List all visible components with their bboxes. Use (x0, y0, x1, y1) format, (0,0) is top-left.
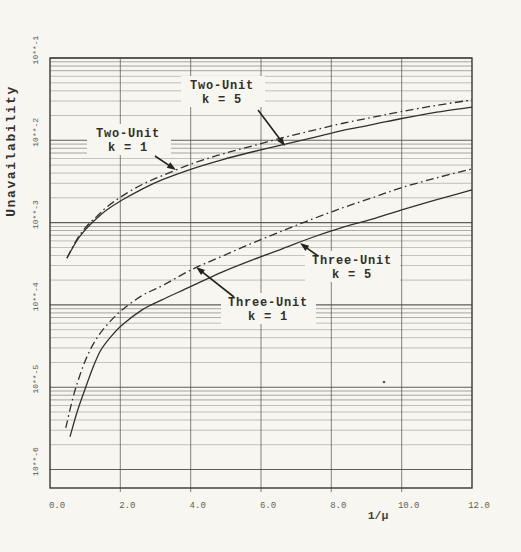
annotation-arrowhead (167, 162, 176, 170)
x-tick-label: 8.0 (330, 501, 346, 511)
x-tick-label: 12.0 (468, 501, 490, 511)
annotation-arrow-line (258, 110, 283, 144)
annotation-line-1: Three-Unit (228, 296, 308, 310)
y-tick-label: 10**-3 (31, 200, 40, 229)
x-tick-label: 10.0 (398, 501, 420, 511)
y-tick-label: 10**-4 (31, 282, 40, 311)
x-tick-label: 4.0 (190, 501, 206, 511)
two-unit-k5-label: Two-Unitk = 5 (181, 76, 285, 146)
y-axis-title: Unavailability (4, 85, 19, 217)
annotation-arrow-line (198, 269, 234, 297)
annotation-layer: Two-Unitk = 5Two-Unitk = 1Three-Unitk = … (87, 76, 400, 324)
three-unit-k5-label: Three-Unitk = 5 (300, 243, 400, 282)
annotation-line-1: Two-Unit (190, 79, 254, 93)
x-tick-label: 2.0 (119, 501, 135, 511)
x-tick-label: 0.0 (49, 501, 65, 511)
annotation-line-2: k = 1 (108, 141, 148, 155)
annotation-line-2: k = 1 (248, 310, 288, 324)
annotation-line-1: Three-Unit (312, 254, 392, 268)
annotation-line-2: k = 5 (202, 93, 242, 107)
x-tick-label: 6.0 (260, 501, 276, 511)
two-unit-k1-label: Two-Unitk = 1 (87, 124, 176, 170)
annotation-line-2: k = 5 (332, 268, 372, 282)
annotation-line-1: Two-Unit (96, 127, 160, 141)
scanned-chart-page: Two-Unitk = 5Two-Unitk = 1Three-Unitk = … (0, 0, 521, 552)
x-axis-title: 1/μ (368, 509, 389, 522)
annotation-arrowhead (300, 243, 309, 251)
grid-layer (50, 58, 472, 492)
unavailability-vs-repair-time-chart: Two-Unitk = 5Two-Unitk = 1Three-Unitk = … (0, 0, 521, 552)
y-tick-label: 10**-1 (31, 35, 40, 64)
curve-two-unit-k1 (67, 100, 472, 258)
y-tick-label: 10**-6 (31, 447, 40, 476)
y-tick-label: 10**-5 (31, 365, 40, 394)
ink-speck (383, 381, 386, 384)
y-tick-label: 10**-2 (31, 118, 40, 147)
